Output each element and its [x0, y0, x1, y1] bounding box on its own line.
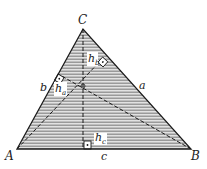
vertex-label-c: C [78, 13, 87, 27]
vertex-label-a: A [4, 149, 14, 163]
side-label-a: a [139, 79, 146, 92]
triangle-diagram: C A B a b c hb ha hc [0, 0, 207, 169]
vertex-label-b: B [190, 149, 200, 163]
side-label-c: c [101, 150, 107, 163]
side-label-b: b [40, 81, 47, 94]
right-angle-hc [84, 141, 91, 149]
